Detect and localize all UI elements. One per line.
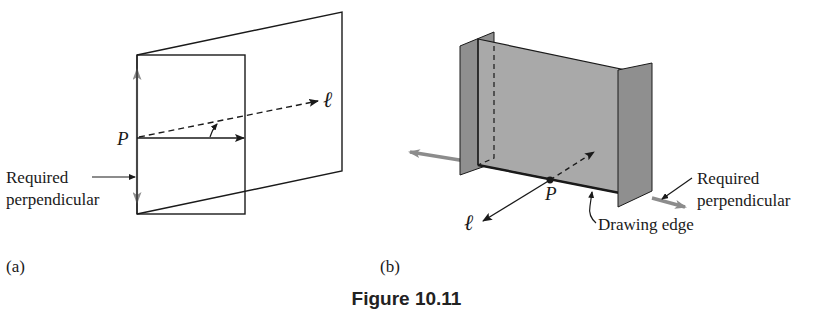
perpendicular-arrow-right — [652, 198, 685, 207]
line-label-l-a: ℓ — [323, 87, 333, 112]
annotation-label-b-line2: perpendicular — [697, 191, 791, 210]
annotation-arrow-b — [662, 178, 692, 199]
line-l-dashed — [139, 101, 318, 137]
main-plane — [478, 39, 635, 196]
rotation-arrow — [210, 124, 217, 137]
rotated-plane — [137, 12, 222, 55]
plane-outline — [137, 12, 342, 214]
panel-label-b: (b) — [380, 257, 400, 276]
figure-caption: Figure 10.11 — [0, 288, 813, 310]
plane-top-edge — [137, 12, 342, 214]
panel-label-a: (a) — [6, 257, 25, 276]
drawing-edge-pointer — [590, 192, 596, 223]
panel-b: P ℓ Required perpendicular Drawing edge … — [380, 32, 791, 276]
line-l-solid-b — [483, 180, 550, 221]
right-fold-plane — [618, 63, 652, 207]
annotation-label-a-line2: perpendicular — [6, 190, 100, 209]
point-label-p-b: P — [544, 183, 557, 204]
point-label-p-a: P — [116, 128, 129, 149]
annotation-label-b-line1: Required — [697, 169, 760, 188]
line-label-l-b: ℓ — [464, 210, 474, 235]
drawing-edge-label: Drawing edge — [598, 215, 694, 234]
panel-a: P ℓ Required perpendicular (a) — [6, 12, 342, 276]
annotation-label-a-line1: Required — [6, 168, 69, 187]
